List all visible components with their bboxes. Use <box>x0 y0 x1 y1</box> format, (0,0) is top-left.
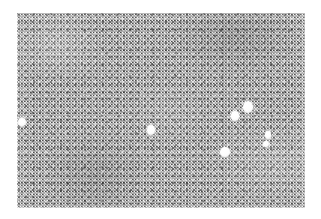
bright-inclusion <box>231 111 240 120</box>
panel-edge-vignette <box>17 13 305 208</box>
speckle-texture-mid <box>17 13 305 208</box>
bright-inclusion <box>147 125 155 134</box>
speckle-texture-coarse <box>17 13 305 208</box>
speckle-texture-fine <box>17 13 305 208</box>
bright-inclusion <box>263 141 268 147</box>
bright-inclusion <box>18 118 25 126</box>
bright-inclusion <box>243 101 253 113</box>
figure-root <box>0 0 321 219</box>
tonal-mottling <box>17 13 305 208</box>
micrograph-panel <box>17 13 305 208</box>
bright-inclusion <box>265 131 271 138</box>
bright-inclusion <box>220 147 230 156</box>
